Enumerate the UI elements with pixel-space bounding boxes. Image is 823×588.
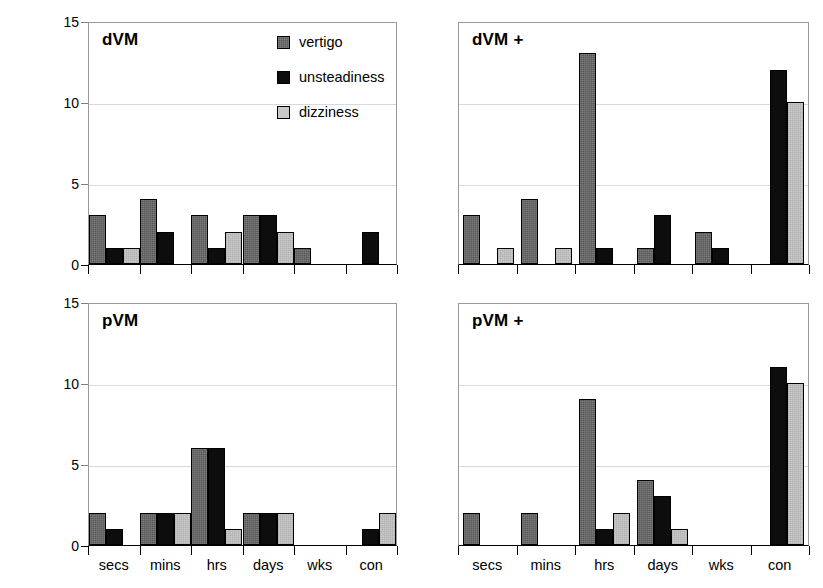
figure-root: Number of Subjects 051015dVMdVM +051015s… bbox=[0, 0, 823, 588]
bar-dvm-plus-con-unsteadiness bbox=[770, 70, 787, 264]
x-axis-tick bbox=[294, 546, 295, 555]
bar-pvm-days-vertigo bbox=[243, 513, 260, 545]
bar-group-pvm-plus-secs bbox=[459, 304, 517, 545]
y-axis-tick-label: 15 bbox=[39, 296, 79, 310]
bar-groups-pvm-plus bbox=[459, 304, 808, 545]
bar-pvm-plus-mins-vertigo bbox=[521, 513, 538, 545]
y-axis-tick bbox=[81, 546, 88, 547]
bar-group-pvm-secs bbox=[89, 304, 140, 545]
x-axis-ticks-dvm-plus bbox=[458, 265, 809, 274]
bar-dvm-plus-wks-vertigo bbox=[695, 232, 712, 264]
x-axis-tick-label: days bbox=[634, 557, 693, 573]
panel-pvm-plus: secsminshrsdayswksconpVM + bbox=[458, 303, 809, 546]
legend-label: vertigo bbox=[299, 34, 343, 50]
bar-pvm-con-unsteadiness bbox=[362, 529, 379, 545]
x-axis-tick bbox=[575, 265, 576, 274]
x-axis-ticks-dvm bbox=[88, 265, 397, 274]
bar-group-dvm-plus-secs bbox=[459, 23, 517, 264]
y-axis-tick bbox=[81, 103, 88, 104]
y-axis-tick bbox=[81, 22, 88, 23]
bar-dvm-hrs-unsteadiness bbox=[208, 248, 225, 264]
bar-pvm-plus-hrs-dizziness bbox=[613, 513, 630, 545]
bar-dvm-plus-days-unsteadiness bbox=[654, 215, 671, 264]
x-axis-tick bbox=[140, 265, 141, 274]
bar-dvm-mins-vertigo bbox=[140, 199, 157, 264]
legend-item-unsteadiness: unsteadiness bbox=[277, 69, 384, 85]
panel-title-pvm-plus: pVM + bbox=[472, 311, 524, 331]
y-axis-tick-label: 15 bbox=[39, 15, 79, 29]
x-axis-tick bbox=[243, 265, 244, 274]
x-axis-tick-label: mins bbox=[517, 557, 576, 573]
x-axis-tick bbox=[191, 265, 192, 274]
bar-group-pvm-plus-hrs bbox=[575, 304, 633, 545]
bar-dvm-hrs-dizziness bbox=[225, 232, 242, 264]
bar-dvm-plus-secs-dizziness bbox=[497, 248, 514, 264]
legend-label: unsteadiness bbox=[299, 69, 384, 85]
x-axis-tick bbox=[692, 546, 693, 555]
bar-group-pvm-days bbox=[243, 304, 294, 545]
dizziness-swatch bbox=[277, 106, 290, 119]
y-axis-tick bbox=[81, 384, 88, 385]
bar-pvm-plus-hrs-vertigo bbox=[579, 399, 596, 545]
bar-dvm-plus-mins-dizziness bbox=[555, 248, 572, 264]
panel-pvm: 051015secsminshrsdayswksconpVM bbox=[88, 303, 397, 546]
y-axis-tick bbox=[81, 303, 88, 304]
bar-group-pvm-wks bbox=[294, 304, 345, 545]
y-axis-tick bbox=[81, 265, 88, 266]
bar-dvm-days-unsteadiness bbox=[260, 215, 277, 264]
x-axis-ticks-pvm bbox=[88, 546, 397, 555]
x-axis-tick-label: hrs bbox=[575, 557, 634, 573]
x-axis-tick bbox=[751, 546, 752, 555]
bar-dvm-wks-vertigo bbox=[294, 248, 311, 264]
x-axis-tick bbox=[692, 265, 693, 274]
bar-pvm-plus-days-unsteadiness bbox=[654, 496, 671, 545]
panel-title-dvm-plus: dVM + bbox=[472, 30, 524, 50]
legend-item-vertigo: vertigo bbox=[277, 34, 384, 50]
bar-dvm-secs-vertigo bbox=[89, 215, 106, 264]
y-axis-tick-label: 10 bbox=[39, 377, 79, 391]
x-axis-tick bbox=[517, 546, 518, 555]
x-axis-tick-label: con bbox=[346, 557, 398, 573]
bar-groups-dvm-plus bbox=[459, 23, 808, 264]
x-axis-tick bbox=[634, 265, 635, 274]
x-axis-tick-label: hrs bbox=[191, 557, 243, 573]
plot-area-pvm bbox=[88, 303, 397, 546]
x-axis-tick bbox=[575, 546, 576, 555]
y-axis-tick-label: 0 bbox=[39, 258, 79, 272]
bar-pvm-days-dizziness bbox=[277, 513, 294, 545]
plot-area-pvm-plus bbox=[458, 303, 809, 546]
x-axis-labels-pvm: secsminshrsdayswkscon bbox=[88, 557, 397, 573]
x-axis-labels-pvm-plus: secsminshrsdayswkscon bbox=[458, 557, 809, 573]
bar-pvm-plus-days-dizziness bbox=[671, 529, 688, 545]
panel-title-pvm: pVM bbox=[102, 311, 138, 331]
legend-label: dizziness bbox=[299, 104, 359, 120]
bar-dvm-days-dizziness bbox=[277, 232, 294, 264]
x-axis-tick-label: con bbox=[751, 557, 810, 573]
chart-legend: vertigounsteadinessdizziness bbox=[277, 34, 384, 120]
x-axis-tick bbox=[458, 265, 459, 274]
x-axis-tick bbox=[346, 546, 347, 555]
bar-pvm-hrs-vertigo bbox=[191, 448, 208, 545]
bar-group-pvm-con bbox=[345, 304, 396, 545]
x-axis-tick-label: mins bbox=[140, 557, 192, 573]
x-axis-tick bbox=[294, 265, 295, 274]
x-axis-tick-label: secs bbox=[88, 557, 140, 573]
bar-pvm-plus-con-unsteadiness bbox=[770, 367, 787, 545]
x-axis-tick bbox=[243, 546, 244, 555]
bar-pvm-secs-unsteadiness bbox=[106, 529, 123, 545]
bar-group-dvm-plus-con bbox=[750, 23, 808, 264]
y-axis-tick bbox=[81, 465, 88, 466]
bar-dvm-secs-dizziness bbox=[123, 248, 140, 264]
bar-pvm-plus-con-dizziness bbox=[787, 383, 804, 545]
bar-group-pvm-plus-days bbox=[634, 304, 692, 545]
x-axis-tick bbox=[458, 546, 459, 555]
x-axis-tick bbox=[88, 265, 89, 274]
bar-dvm-hrs-vertigo bbox=[191, 215, 208, 264]
bar-pvm-hrs-dizziness bbox=[225, 529, 242, 545]
x-axis-tick-label: wks bbox=[692, 557, 751, 573]
y-axis-tick bbox=[81, 184, 88, 185]
y-axis-tick-label: 10 bbox=[39, 96, 79, 110]
bar-pvm-con-dizziness bbox=[379, 513, 396, 545]
bar-group-pvm-plus-con bbox=[750, 304, 808, 545]
panel-title-dvm: dVM bbox=[102, 30, 138, 50]
